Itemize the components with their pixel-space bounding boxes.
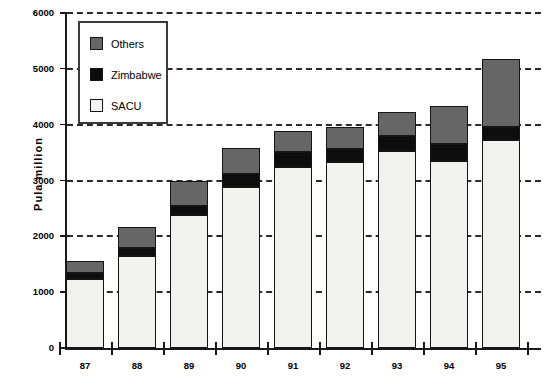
bar-segment-sacu-95 [482, 140, 520, 348]
bar-segment-sacu-94 [430, 161, 468, 348]
bar-segment-others-91 [274, 131, 312, 152]
bar-segment-zimbabwe-92 [326, 149, 364, 162]
legend-label-others: Others [111, 38, 144, 50]
bar-segment-others-93 [378, 112, 416, 137]
bar-segment-sacu-89 [170, 215, 208, 348]
bar-segment-sacu-93 [378, 151, 416, 348]
others-swatch [90, 37, 103, 50]
chart-legend: Others Zimbabwe SACU [78, 21, 168, 124]
bar-segment-others-94 [430, 106, 468, 144]
x-tick-label-89: 89 [169, 360, 209, 371]
x-tick-label-88: 88 [117, 360, 157, 371]
x-tick-91 [267, 342, 269, 355]
bar-segment-zimbabwe-93 [378, 136, 416, 151]
x-tick-label-90: 90 [221, 360, 261, 371]
bar-segment-zimbabwe-95 [482, 127, 520, 140]
x-tick-label-91: 91 [273, 360, 313, 371]
zimbabwe-swatch [90, 68, 103, 81]
x-tick-95 [475, 342, 477, 355]
bar-segment-others-92 [326, 127, 364, 149]
bar-segment-sacu-90 [222, 187, 260, 348]
legend-item-sacu: SACU [90, 99, 142, 112]
x-tick-93 [371, 342, 373, 355]
y-tick-label-1000: 1000 [14, 287, 54, 296]
x-tick-label-92: 92 [325, 360, 365, 371]
x-tick-92 [319, 342, 321, 355]
x-tick-label-87: 87 [65, 360, 105, 371]
gridline-6000 [67, 12, 541, 14]
bar-segment-zimbabwe-88 [118, 248, 156, 256]
legend-label-sacu: SACU [111, 100, 142, 112]
bar-segment-zimbabwe-87 [66, 273, 104, 279]
x-tick-label-94: 94 [429, 360, 469, 371]
x-tick-88 [111, 342, 113, 355]
bar-89 [170, 181, 208, 349]
bar-95 [482, 59, 520, 348]
y-tick-label-3000: 3000 [14, 176, 54, 185]
chart-title-clipped [0, 0, 551, 3]
plot-area: Pula million 0100020003000400050006000 8… [0, 0, 551, 386]
bar-segment-sacu-87 [66, 279, 104, 348]
bar-segment-others-87 [66, 261, 104, 273]
bar-segment-sacu-88 [118, 256, 156, 348]
y-tick-label-0: 0 [14, 343, 54, 352]
bar-92 [326, 127, 364, 348]
x-tick-90 [215, 342, 217, 355]
x-tick-label-93: 93 [377, 360, 417, 371]
y-tick-label-2000: 2000 [14, 231, 54, 240]
bar-88 [118, 227, 156, 348]
bar-93 [378, 112, 416, 348]
bar-segment-others-89 [170, 181, 208, 207]
x-tick-end [527, 342, 529, 355]
chart-root: Pula million 0100020003000400050006000 8… [0, 0, 551, 386]
bar-segment-sacu-91 [274, 167, 312, 348]
bar-segment-zimbabwe-90 [222, 174, 260, 187]
bar-87 [66, 261, 104, 348]
x-tick-89 [163, 342, 165, 355]
y-tick-label-6000: 6000 [14, 8, 54, 17]
bar-91 [274, 131, 312, 348]
bar-segment-zimbabwe-91 [274, 152, 312, 167]
bar-segment-others-90 [222, 148, 260, 174]
x-tick-87 [59, 342, 61, 355]
y-tick-label-5000: 5000 [14, 64, 54, 73]
bar-segment-sacu-92 [326, 162, 364, 348]
bar-90 [222, 148, 260, 348]
x-tick-94 [423, 342, 425, 355]
bar-94 [430, 106, 468, 348]
legend-item-others: Others [90, 37, 144, 50]
sacu-swatch [90, 99, 103, 112]
y-tick-label-4000: 4000 [14, 120, 54, 129]
legend-item-zimbabwe: Zimbabwe [90, 68, 162, 81]
legend-label-zimbabwe: Zimbabwe [111, 69, 162, 81]
bar-segment-others-95 [482, 59, 520, 127]
x-axis-line [65, 348, 541, 350]
bar-segment-zimbabwe-94 [430, 144, 468, 161]
bar-segment-others-88 [118, 227, 156, 248]
x-tick-label-95: 95 [481, 360, 521, 371]
bar-segment-zimbabwe-89 [170, 206, 208, 214]
